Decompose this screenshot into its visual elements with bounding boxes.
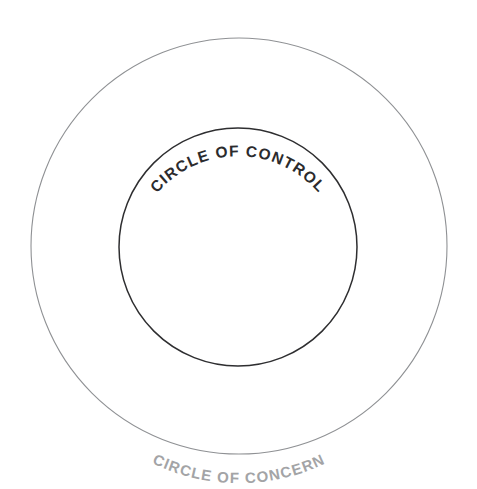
inner-circle-label-textpath: CIRCLE OF CONTROL bbox=[147, 142, 330, 195]
inner-circle-label: CIRCLE OF CONTROL bbox=[147, 142, 330, 195]
outer-circle-label-textpath: CIRCLE OF CONCERN bbox=[151, 450, 328, 486]
inner-circle-ring bbox=[119, 128, 357, 366]
diagram-canvas: CIRCLE OF CONTROL CIRCLE OF CONCERN bbox=[0, 0, 477, 489]
outer-circle-ring bbox=[31, 38, 447, 454]
circle-of-control-diagram: CIRCLE OF CONTROL CIRCLE OF CONCERN bbox=[0, 0, 477, 489]
outer-circle-label: CIRCLE OF CONCERN bbox=[151, 450, 328, 486]
